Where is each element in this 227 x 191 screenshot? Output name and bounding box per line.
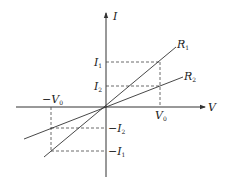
iv-diagram: I V R1 R2 I1 I2 −I2 −I1 V0 −V0 [0,0,227,191]
i-axis-label: I [112,10,118,23]
v0-label: V0 [155,109,167,122]
v-axis-label: V [208,101,217,114]
r1-label: R1 [176,38,189,51]
i2-label: I2 [93,80,102,93]
neg-i1-label: −I1 [108,145,125,158]
i1-label: I1 [93,56,102,69]
r2-line [24,77,183,139]
neg-v0-label: −V0 [42,93,63,106]
r1-line [44,47,176,157]
r2-label: R2 [183,70,196,83]
neg-i2-label: −I2 [108,122,126,135]
